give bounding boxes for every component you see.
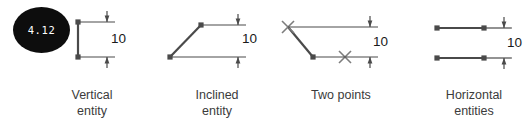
inclined-entity-line <box>170 25 201 57</box>
figure-callout-badge: 4.12 <box>13 7 70 53</box>
caption-vertical-entity: Vertical entity <box>56 88 128 119</box>
caption-inclined-entity: Inclined entity <box>178 88 256 119</box>
arrowhead-down-icon <box>236 19 241 26</box>
arrowhead-up-icon <box>105 57 110 64</box>
panel-inclined-entity-geometry <box>167 14 246 68</box>
technical-drawing-figure: 4.12 10 10 10 10 Vertical entity Incline… <box>0 0 529 138</box>
figure-callout-label: 4.12 <box>28 25 56 36</box>
arrowhead-up-icon <box>502 58 507 65</box>
caption-two-points: Two points <box>295 88 387 104</box>
dimension-value-horizontal-entities: 10 <box>507 36 522 50</box>
endpoint-dot <box>434 55 439 60</box>
endpoint-dot <box>434 25 439 30</box>
arrowhead-down-icon <box>368 21 373 28</box>
panel-horizontal-entities-geometry <box>434 17 512 69</box>
dimension-value-vertical-entity: 10 <box>111 32 126 46</box>
arrowhead-up-icon <box>368 57 373 64</box>
arrowhead-down-icon <box>502 22 507 29</box>
panel-vertical-entity-geometry <box>75 11 115 68</box>
dimension-value-inclined-entity: 10 <box>242 32 257 46</box>
arrowhead-up-icon <box>236 57 241 64</box>
dimension-value-two-points: 10 <box>373 35 388 49</box>
panel-two-points-geometry <box>282 16 378 68</box>
caption-horizontal-entities: Horizontal entities <box>429 88 519 119</box>
arrowhead-down-icon <box>105 16 110 23</box>
